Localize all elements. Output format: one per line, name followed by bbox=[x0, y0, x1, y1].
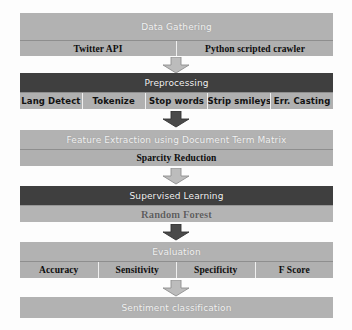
cell-sensitivity: Sensitivity bbox=[99, 262, 178, 278]
stage-header-supervised-learning: Supervised Learning bbox=[20, 186, 333, 205]
stage-header-preprocessing: Preprocessing bbox=[20, 73, 333, 92]
cell-python-scripted-crawler: Python scripted crawler bbox=[177, 41, 333, 56]
cell-lang-detect: Lang Detect bbox=[20, 93, 83, 109]
cell-strip-smileys: Strip smileys bbox=[208, 93, 271, 109]
arrow-evaluation-to-sentiment bbox=[162, 280, 190, 297]
arrow-feature-to-supervised bbox=[162, 168, 190, 185]
cell-stop-words: Stop words bbox=[146, 93, 209, 109]
stage-subrow-feature-extraction: Sparcity Reduction bbox=[20, 149, 333, 166]
cell-specificity: Specificity bbox=[177, 262, 256, 278]
flowchart-canvas: Data Gathering Twitter API Python script… bbox=[0, 0, 352, 330]
cell-sparcity-reduction: Sparcity Reduction bbox=[20, 150, 333, 166]
arrow-supervised-to-evaluation bbox=[162, 224, 190, 241]
stage-supervised-learning: Supervised Learning Random Forest bbox=[20, 186, 333, 222]
cell-random-forest: Random Forest bbox=[20, 206, 333, 222]
stage-evaluation: Evaluation Accuracy Sensitivity Specific… bbox=[20, 242, 333, 278]
stage-preprocessing: Preprocessing Lang Detect Tokenize Stop … bbox=[20, 73, 333, 109]
stage-subrow-evaluation: Accuracy Sensitivity Specificity F Score bbox=[20, 261, 333, 278]
stage-sentiment-classification: Sentiment classification bbox=[20, 297, 333, 318]
cell-err-casting: Err. Casting bbox=[271, 93, 333, 109]
cell-tokenize: Tokenize bbox=[83, 93, 146, 109]
stage-subrow-supervised-learning: Random Forest bbox=[20, 205, 333, 222]
stage-data-gathering: Data Gathering Twitter API Python script… bbox=[20, 13, 333, 56]
stage-feature-extraction: Feature Extraction using Document Term M… bbox=[20, 130, 333, 166]
stage-subrow-preprocessing: Lang Detect Tokenize Stop words Strip sm… bbox=[20, 92, 333, 109]
cell-twitter-api: Twitter API bbox=[20, 41, 177, 56]
stage-header-evaluation: Evaluation bbox=[20, 242, 333, 261]
arrow-gathering-to-preprocessing bbox=[162, 57, 190, 74]
cell-f-score: F Score bbox=[256, 262, 334, 278]
stage-header-feature-extraction: Feature Extraction using Document Term M… bbox=[20, 130, 333, 149]
stage-header-sentiment-classification: Sentiment classification bbox=[20, 297, 333, 318]
arrow-preprocessing-to-feature bbox=[162, 111, 190, 128]
cell-accuracy: Accuracy bbox=[20, 262, 99, 278]
stage-subrow-data-gathering: Twitter API Python scripted crawler bbox=[20, 40, 333, 56]
stage-header-data-gathering: Data Gathering bbox=[20, 13, 333, 40]
